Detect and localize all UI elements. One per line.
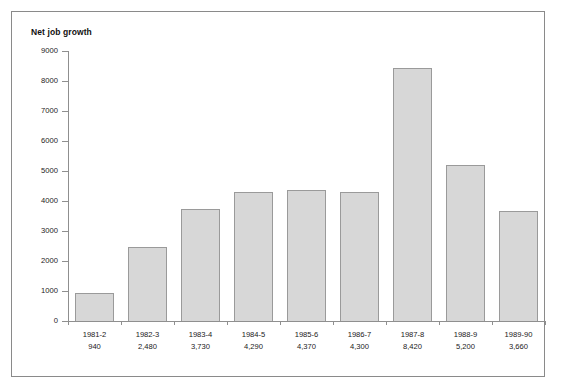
x-axis-tick — [68, 321, 69, 325]
bar — [234, 192, 273, 321]
x-axis-category-label: 1984-5 — [227, 329, 280, 341]
y-axis-tick: 5000 — [62, 171, 68, 172]
x-axis-line — [68, 321, 545, 322]
x-axis-value-label: 2,480 — [121, 341, 174, 353]
x-axis-tick — [121, 321, 122, 325]
x-axis-tick — [386, 321, 387, 325]
chart-figure-frame: Net job growth 0100020003000400050006000… — [11, 11, 545, 377]
x-axis-label-group: 1983-43,730 — [174, 329, 227, 352]
x-axis-category-label: 1987-8 — [386, 329, 439, 341]
x-axis-label-group: 1989-903,660 — [492, 329, 545, 352]
x-axis-tick — [333, 321, 334, 325]
x-axis-label-group: 1987-88,420 — [386, 329, 439, 352]
x-axis-tick — [492, 321, 493, 325]
x-axis-category-label: 1985-6 — [280, 329, 333, 341]
x-axis-category-label: 1982-3 — [121, 329, 174, 341]
y-axis-tick-label: 1000 — [41, 286, 58, 295]
bar — [340, 192, 379, 321]
chart-title: Net job growth — [31, 27, 92, 37]
x-axis-category-label: 1983-4 — [174, 329, 227, 341]
x-axis-tick — [280, 321, 281, 325]
bar — [446, 165, 485, 321]
y-axis-tick-label: 0 — [54, 316, 58, 325]
y-axis-tick: 8000 — [62, 81, 68, 82]
x-axis-value-label: 4,370 — [280, 341, 333, 353]
y-axis-tick: 1000 — [62, 291, 68, 292]
x-axis-value-label: 5,200 — [439, 341, 492, 353]
bar — [128, 247, 167, 321]
y-axis-tick: 6000 — [62, 141, 68, 142]
y-axis-tick: 7000 — [62, 111, 68, 112]
y-axis-tick-label: 3000 — [41, 226, 58, 235]
bar — [75, 293, 114, 321]
x-axis-tick — [439, 321, 440, 325]
x-axis-value-label: 3,730 — [174, 341, 227, 353]
plot-area: 0100020003000400050006000700080009000 19… — [68, 51, 546, 321]
x-axis-label-group: 1986-74,300 — [333, 329, 386, 352]
x-axis-value-label: 8,420 — [386, 341, 439, 353]
y-axis-tick-label: 2000 — [41, 256, 58, 265]
y-axis-tick: 9000 — [62, 51, 68, 52]
x-axis-category-label: 1986-7 — [333, 329, 386, 341]
bar — [181, 209, 220, 321]
x-axis-label-group: 1985-64,370 — [280, 329, 333, 352]
y-axis-tick: 2000 — [62, 261, 68, 262]
bar — [287, 190, 326, 321]
x-axis-category-label: 1989-90 — [492, 329, 545, 341]
x-axis-tick — [227, 321, 228, 325]
x-axis-label-group: 1984-54,290 — [227, 329, 280, 352]
x-axis-category-label: 1988-9 — [439, 329, 492, 341]
x-axis-label-group: 1982-32,480 — [121, 329, 174, 352]
x-axis-value-label: 3,660 — [492, 341, 545, 353]
y-axis-line — [68, 51, 69, 322]
x-axis-value-label: 4,300 — [333, 341, 386, 353]
y-axis-tick-label: 6000 — [41, 136, 58, 145]
x-axis-tick — [174, 321, 175, 325]
x-axis-value-label: 4,290 — [227, 341, 280, 353]
y-axis-tick-label: 7000 — [41, 106, 58, 115]
x-axis-tick — [545, 321, 546, 325]
bar — [499, 211, 538, 321]
y-axis-tick-label: 5000 — [41, 166, 58, 175]
bar — [393, 68, 432, 321]
x-axis-value-label: 940 — [68, 341, 121, 353]
x-axis-label-group: 1981-2940 — [68, 329, 121, 352]
y-axis-tick: 3000 — [62, 231, 68, 232]
y-axis-tick-label: 9000 — [41, 46, 58, 55]
x-axis-category-label: 1981-2 — [68, 329, 121, 341]
x-axis-label-group: 1988-95,200 — [439, 329, 492, 352]
y-axis-tick-label: 4000 — [41, 196, 58, 205]
y-axis-tick: 4000 — [62, 201, 68, 202]
y-axis-tick-label: 8000 — [41, 76, 58, 85]
